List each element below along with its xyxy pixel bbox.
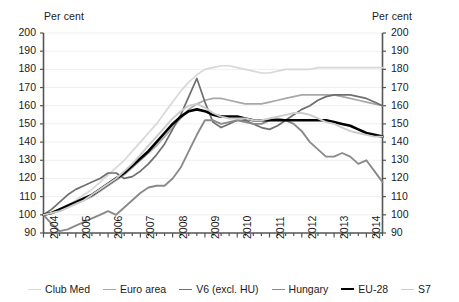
y-axis-tick-label-right: 90 — [391, 226, 403, 238]
y-axis-tick-label-left: 110 — [10, 190, 36, 202]
y-axis-tick-label-left: 130 — [10, 153, 36, 165]
y-axis-tick-label-left: 140 — [10, 135, 36, 147]
y-axis-tick-label-left: 170 — [10, 81, 36, 93]
x-axis-tick-label: 2005 — [80, 216, 92, 239]
y-axis-tick-label-left: 100 — [10, 208, 36, 220]
left-axis-unit-label: Per cent — [44, 10, 84, 22]
legend-label: S7 — [418, 284, 431, 295]
axis-lines — [44, 33, 383, 233]
legend-swatch-line-icon — [401, 289, 414, 290]
x-axis-tick-label: 2012 — [306, 216, 318, 239]
legend-swatch-line-icon — [179, 289, 192, 290]
legend-swatch-line-icon — [103, 289, 116, 290]
legend-swatch-line-icon — [272, 289, 285, 290]
axis-tickmarks — [40, 33, 386, 238]
legend-label: Club Med — [45, 284, 90, 295]
series-lines — [44, 66, 383, 231]
x-axis-tick-label: 2013 — [338, 216, 350, 239]
x-axis-tick-label: 2004 — [48, 216, 60, 239]
y-axis-tick-label-left: 120 — [10, 171, 36, 183]
y-axis-tick-label-right: 130 — [391, 153, 409, 165]
y-axis-tick-label-left: 150 — [10, 117, 36, 129]
right-axis-unit-label: Per cent — [372, 10, 412, 22]
legend-label: V6 (excl. HU) — [196, 284, 258, 295]
y-axis-tick-label-left: 160 — [10, 99, 36, 111]
legend-swatch-line-icon — [28, 289, 41, 290]
y-axis-tick-label-right: 100 — [391, 208, 409, 220]
legend-item-v6-excl-hu[interactable]: V6 (excl. HU) — [179, 284, 258, 295]
y-axis-tick-label-right: 110 — [391, 190, 408, 202]
y-axis-tick-label-right: 200 — [391, 26, 409, 38]
chart-container: Per cent Per cent 2001901801701601501401… — [0, 0, 459, 302]
series-line-hungary — [44, 118, 383, 231]
y-axis-tick-label-left: 180 — [10, 62, 36, 74]
legend-item-euro-area[interactable]: Euro area — [103, 284, 166, 295]
y-axis-tick-label-right: 160 — [391, 99, 409, 111]
y-axis-tick-label-left: 200 — [10, 26, 36, 38]
legend-label: Euro area — [120, 284, 166, 295]
y-axis-tick-label-right: 150 — [391, 117, 409, 129]
legend-label: Hungary — [289, 284, 329, 295]
x-axis-tick-label: 2011 — [274, 216, 286, 239]
legend-swatch-line-icon — [341, 288, 354, 290]
y-axis-tick-label-right: 170 — [391, 81, 409, 93]
legend-item-hungary[interactable]: Hungary — [272, 284, 329, 295]
chart-legend: Club MedEuro areaV6 (excl. HU)HungaryEU-… — [0, 278, 459, 300]
y-axis-tick-label-left: 90 — [10, 226, 36, 238]
y-axis-tick-label-right: 190 — [391, 44, 409, 56]
x-axis-tick-label: 2009 — [209, 216, 221, 239]
legend-label: EU-28 — [358, 284, 388, 295]
legend-item-eu-28[interactable]: EU-28 — [341, 284, 388, 295]
y-axis-tick-label-right: 120 — [391, 171, 409, 183]
x-axis-tick-label: 2007 — [144, 216, 156, 239]
y-axis-tick-label-right: 140 — [391, 135, 409, 147]
legend-item-s7[interactable]: S7 — [401, 284, 431, 295]
x-axis-tick-label: 2006 — [112, 216, 124, 239]
x-axis-tick-label: 2014 — [370, 216, 382, 239]
y-axis-tick-label-left: 190 — [10, 44, 36, 56]
series-line-eu-28 — [44, 109, 383, 214]
y-axis-tick-label-right: 180 — [391, 62, 409, 74]
x-axis-tick-label: 2010 — [241, 216, 253, 239]
legend-item-club-med[interactable]: Club Med — [28, 284, 90, 295]
x-axis-tick-label: 2008 — [177, 216, 189, 239]
